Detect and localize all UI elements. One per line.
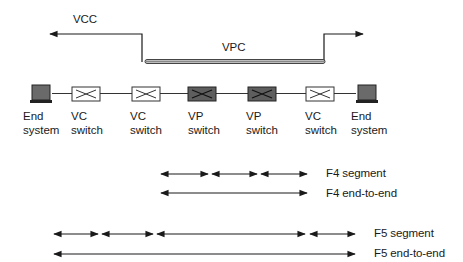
vcc-label: VCC (73, 13, 97, 26)
f5-end-to-end-label: F5 end-to-end (374, 247, 445, 260)
end-system-left-icon (30, 85, 52, 103)
f4-end-to-end-label: F4 end-to-end (326, 187, 397, 200)
device-label-end-system-left: Endsystem (23, 110, 59, 137)
end-system-right-icon (356, 85, 378, 103)
vcc-path (50, 34, 363, 62)
device-label-vc-switch-1: VCswitch (71, 110, 103, 137)
f4-segment-label: F4 segment (326, 167, 386, 180)
vc-switch-icon (132, 87, 160, 101)
device-label-vp-switch-1: VPswitch (188, 110, 220, 137)
device-label-vc-switch-2: VCswitch (130, 110, 162, 137)
device-label-vc-switch-3: VCswitch (305, 110, 337, 137)
device-label-end-system-right: Endsystem (351, 110, 387, 137)
vpc-label: VPC (222, 41, 245, 54)
f5-segment-label: F5 segment (374, 227, 434, 240)
vc-switch-icon (72, 87, 100, 101)
device-label-vp-switch-2: VPswitch (246, 110, 278, 137)
vp-switch-icon (248, 87, 276, 101)
vpc-tube (145, 60, 325, 64)
vp-switch-icon (188, 87, 216, 101)
vc-switch-icon (306, 87, 334, 101)
oam-flow-diagram (0, 0, 463, 262)
